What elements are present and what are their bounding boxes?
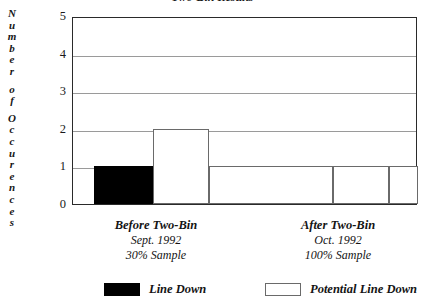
category-before-date: Sept. 1992	[66, 233, 246, 248]
y-tick-label-2: 2	[40, 122, 66, 137]
y-tick-label-5: 5	[40, 9, 66, 24]
category-after-date: Oct. 1992	[258, 233, 418, 248]
category-label-before: Before Two-Bin Sept. 1992 30% Sample	[66, 218, 246, 263]
y-axis-title-char: N	[2, 8, 22, 20]
y-axis-title-char: f	[2, 95, 22, 107]
chart-title-text: Two-Bin Results	[172, 0, 254, 1]
category-before-sample: 30% Sample	[66, 248, 246, 263]
legend-entry-potential-line-down: Potential Line Down	[265, 282, 417, 297]
legend-label-line-down: Line Down	[149, 282, 206, 297]
y-tick-label-1: 1	[40, 159, 66, 174]
bar-before-line-down	[94, 166, 153, 204]
legend-swatch-line-down-icon	[104, 283, 140, 296]
plot-area	[72, 17, 417, 205]
y-tick-label-0: 0	[40, 197, 66, 212]
y-axis-title-char: c	[2, 194, 22, 206]
y-axis-title: N u m b e r o f O c c u r e n c e s	[2, 8, 22, 229]
legend-entry-line-down: Line Down	[104, 282, 206, 297]
legend-label-potential-line-down: Potential Line Down	[310, 282, 417, 297]
y-axis-title-char: s	[2, 217, 22, 229]
chart-title-clipped: Two-Bin Results	[0, 0, 425, 7]
bar-after-potential-line-down-3	[389, 166, 418, 204]
y-axis-title-char: c	[2, 136, 22, 148]
category-after-sample: 100% Sample	[258, 248, 418, 263]
bar-after-potential-line-down-2	[333, 166, 389, 204]
gridline-3	[73, 93, 416, 94]
chart-legend: Line Down Potential Line Down	[0, 280, 425, 302]
chart-root: Two-Bin Results N u m b e r o f O c c u …	[0, 0, 425, 307]
category-before-title: Before Two-Bin	[66, 218, 246, 233]
bar-after-potential-line-down-1	[209, 166, 333, 204]
bar-before-potential-line-down	[153, 129, 209, 204]
category-after-title: After Two-Bin	[258, 218, 418, 233]
legend-swatch-potential-line-down-icon	[265, 283, 301, 296]
category-label-after: After Two-Bin Oct. 1992 100% Sample	[258, 218, 418, 263]
y-tick-label-3: 3	[40, 84, 66, 99]
gridline-4	[73, 56, 416, 57]
gridline-2	[73, 131, 416, 132]
y-axis-title-char: r	[2, 159, 22, 171]
y-tick-label-4: 4	[40, 47, 66, 62]
y-axis-title-char: r	[2, 66, 22, 78]
